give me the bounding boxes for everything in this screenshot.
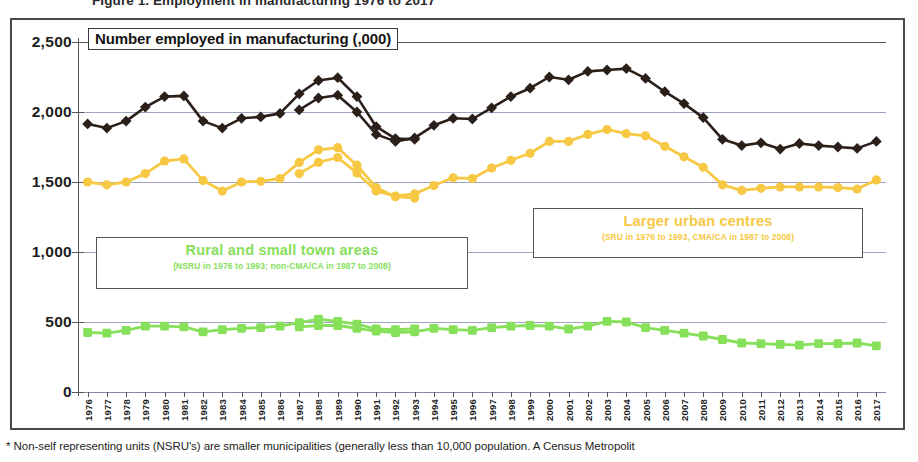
figure-top-title: Figure 1. Employment in manufacturing 19… [92, 0, 792, 9]
x-tick-1982 [203, 392, 204, 397]
x-tick-1998 [511, 392, 512, 397]
x-axis-label-2006: 2006 [660, 399, 671, 421]
x-tick-2001 [569, 392, 570, 397]
x-tick-1985 [261, 392, 262, 397]
x-tick-1984 [242, 392, 243, 397]
x-tick-2006 [665, 392, 666, 397]
x-axis-label-1993: 1993 [410, 399, 421, 421]
x-tick-2000 [549, 392, 550, 397]
x-axis-label-1988: 1988 [313, 399, 324, 421]
gridline-500 [78, 322, 886, 323]
x-tick-1990 [357, 392, 358, 397]
legend-rural-subtitle: (NSRU in 1976 to 1993; non-CMA/CA in 198… [107, 262, 457, 271]
x-tick-1986 [280, 392, 281, 397]
x-axis-label-1976: 1976 [83, 399, 94, 421]
x-tick-1987 [299, 392, 300, 397]
x-axis-label-1977: 1977 [102, 399, 113, 421]
y-axis-label-1500: 1,500 [6, 173, 72, 191]
x-axis-label-2016: 2016 [852, 399, 863, 421]
x-tick-2007 [684, 392, 685, 397]
legend-urban-title: Larger urban centres [544, 213, 852, 230]
x-axis-label-2000: 2000 [544, 399, 555, 421]
x-axis-label-1987: 1987 [294, 399, 305, 421]
x-axis-label-1997: 1997 [487, 399, 498, 421]
y-axis-labels: 05001,0001,5002,0002,500 [0, 18, 72, 430]
y-tick-2500 [72, 42, 84, 43]
x-tick-1995 [453, 392, 454, 397]
x-tick-1994 [434, 392, 435, 397]
legend-rural-small-town[interactable]: Rural and small town areas (NSRU in 1976… [96, 237, 468, 289]
x-tick-1976 [88, 392, 89, 397]
x-axis-label-1996: 1996 [467, 399, 478, 421]
x-tick-1978 [126, 392, 127, 397]
y-tick-0 [72, 392, 84, 393]
x-axis-label-1983: 1983 [217, 399, 228, 421]
x-axis-label-2014: 2014 [814, 399, 825, 421]
legend-rural-title: Rural and small town areas [107, 242, 457, 259]
x-axis-label-2007: 2007 [679, 399, 690, 421]
x-tick-2015 [838, 392, 839, 397]
y-axis-label-1000: 1,000 [6, 243, 72, 261]
x-tick-1980 [165, 392, 166, 397]
x-tick-1996 [472, 392, 473, 397]
x-axis-label-1985: 1985 [256, 399, 267, 421]
x-axis-label-2009: 2009 [717, 399, 728, 421]
x-axis-label-2017: 2017 [871, 399, 882, 421]
gridline-2000 [78, 112, 886, 113]
x-axis-label-2008: 2008 [698, 399, 709, 421]
gridline-0 [78, 392, 886, 393]
x-tick-1997 [492, 392, 493, 397]
x-axis-label-1998: 1998 [506, 399, 517, 421]
x-axis-label-2002: 2002 [583, 399, 594, 421]
x-tick-2017 [876, 392, 877, 397]
y-axis-line [78, 38, 79, 396]
x-tick-1999 [530, 392, 531, 397]
x-axis-label-1980: 1980 [160, 399, 171, 421]
x-tick-1983 [222, 392, 223, 397]
x-tick-1991 [376, 392, 377, 397]
y-tick-1500 [72, 182, 84, 183]
x-axis-label-2013: 2013 [794, 399, 805, 421]
x-axis-label-2015: 2015 [833, 399, 844, 421]
x-tick-2011 [761, 392, 762, 397]
x-tick-2016 [857, 392, 858, 397]
x-tick-1989 [338, 392, 339, 397]
y-axis-label-0: 0 [6, 383, 72, 401]
x-axis-label-2004: 2004 [621, 399, 632, 421]
y-axis-label-500: 500 [6, 313, 72, 331]
x-tick-1981 [184, 392, 185, 397]
x-axis-label-2010: 2010 [737, 399, 748, 421]
x-axis-label-1986: 1986 [275, 399, 286, 421]
x-axis-label-1979: 1979 [140, 399, 151, 421]
x-axis-label-2005: 2005 [641, 399, 652, 421]
legend-larger-urban-centres[interactable]: Larger urban centres (SRU in 1976 to 199… [533, 208, 863, 258]
x-tick-2004 [626, 392, 627, 397]
x-axis-label-1984: 1984 [237, 399, 248, 421]
x-axis-label-2012: 2012 [775, 399, 786, 421]
x-axis-label-2011: 2011 [756, 399, 767, 420]
figure-footnote: * Non-self representing units (NSRU's) a… [6, 440, 918, 452]
x-tick-2002 [588, 392, 589, 397]
x-tick-2013 [799, 392, 800, 397]
y-tick-2000 [72, 112, 84, 113]
x-axis-label-2003: 2003 [602, 399, 613, 421]
x-tick-2014 [819, 392, 820, 397]
x-tick-2003 [607, 392, 608, 397]
y-tick-500 [72, 322, 84, 323]
x-tick-1977 [107, 392, 108, 397]
x-axis-label-1978: 1978 [121, 399, 132, 421]
x-axis-label-1991: 1991 [371, 399, 382, 421]
y-axis-label-2500: 2,500 [6, 33, 72, 51]
x-tick-2009 [722, 392, 723, 397]
x-axis-label-1999: 1999 [525, 399, 536, 421]
x-tick-2010 [742, 392, 743, 397]
chart-title-box: Number employed in manufacturing (,000) [88, 28, 398, 50]
x-tick-1979 [145, 392, 146, 397]
x-axis-label-1992: 1992 [390, 399, 401, 421]
x-tick-1992 [395, 392, 396, 397]
x-axis-label-1995: 1995 [448, 399, 459, 421]
x-axis-label-1989: 1989 [333, 399, 344, 421]
x-tick-2012 [780, 392, 781, 397]
x-axis-label-1981: 1981 [179, 399, 190, 421]
x-axis-label-2001: 2001 [564, 399, 575, 421]
